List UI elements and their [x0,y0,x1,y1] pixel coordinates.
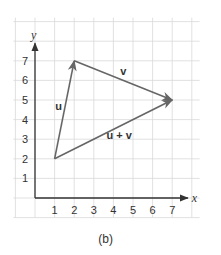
y-tick-label: 7 [22,55,28,67]
axes [35,43,188,198]
vector-label-v: v [120,65,127,77]
x-axis-label: x [191,191,198,205]
x-tick-label: 2 [71,204,77,216]
y-tick-label: 5 [22,94,28,106]
y-axis-label: y [30,28,37,42]
x-tick-label: 3 [91,204,97,216]
vector-label-u: u [55,100,62,112]
figure-caption: (b) [98,232,113,246]
x-tick-label: 1 [52,204,58,216]
y-tick-label: 2 [22,153,28,165]
y-tick-label: 1 [22,172,28,184]
y-tick-label: 3 [22,133,28,145]
x-tick-label: 6 [150,204,156,216]
vector-addition-diagram: 12345671234567 uvu + v x y (b) [0,0,221,255]
y-tick-label: 4 [22,114,28,126]
x-tick-label: 7 [169,204,175,216]
y-tick-label: 6 [22,74,28,86]
x-tick-label: 4 [110,204,116,216]
x-tick-label: 5 [130,204,136,216]
grid [13,18,199,218]
vector-label-u-plus-v: u + v [107,129,133,141]
